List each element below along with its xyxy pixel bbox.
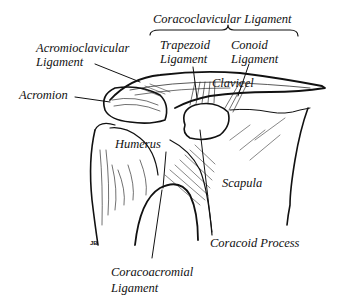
leader-coracoid — [200, 130, 212, 232]
label-conoid-line1: Conoid — [231, 38, 268, 52]
label-coracoclavicular-ligament: Coracoclavicular Ligament — [153, 12, 292, 26]
label-conoid-line2: Ligament — [231, 52, 278, 66]
label-clavicle: Clavicel — [212, 76, 254, 90]
label-scapula: Scapula — [222, 176, 262, 190]
label-coracoacromial-line1: Coracoacromial — [111, 265, 193, 279]
bracket — [150, 25, 298, 36]
leader-coracoacromial — [152, 190, 162, 258]
label-acromioclavicular-line1: Acromioclavicular — [36, 41, 129, 55]
label-trapezoid-line1: Trapezoid — [160, 38, 210, 52]
label-coracoid-process: Coracoid Process — [210, 236, 299, 250]
label-coracoacromial-line2: Ligament — [111, 281, 158, 295]
shoulder-anatomy-diagram: Coracoclavicular Ligament Trapezoid Liga… — [0, 0, 341, 308]
coracoacromial-arch — [135, 184, 198, 245]
artist-signature: JB — [90, 240, 98, 246]
humerus-outline — [91, 130, 98, 245]
coracoid-outline — [184, 104, 229, 140]
label-acromion: Acromion — [19, 88, 68, 102]
acromion-outline — [104, 87, 167, 123]
leader-humerus — [163, 152, 166, 188]
label-humerus: Humerus — [115, 137, 161, 151]
label-trapezoid-line2: Ligament — [160, 52, 207, 66]
leader-acromioclavicular — [95, 64, 140, 82]
label-acromioclavicular-line2: Ligament — [36, 55, 83, 69]
scapula-outline — [170, 140, 212, 235]
